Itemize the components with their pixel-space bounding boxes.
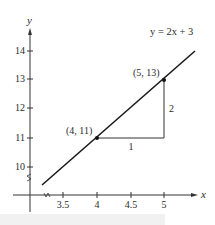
slope-triangle: 1 2 <box>97 80 174 152</box>
x-tick-5: 5 <box>162 199 167 210</box>
point-4-11 <box>95 136 99 140</box>
x-axis: x 3.5 4 4.5 5 <box>13 188 206 210</box>
y-axis-arrow-icon <box>28 28 32 35</box>
run-label: 1 <box>129 141 134 152</box>
y-tick-12: 12 <box>15 102 25 113</box>
x-axis-break-icon <box>44 193 50 197</box>
chart: y 10 11 12 13 14 x 3.5 4 4.5 5 y = 2x + … <box>0 0 215 225</box>
y-tick-13: 13 <box>15 73 25 84</box>
point-5-13 <box>162 78 166 82</box>
y-tick-11: 11 <box>15 132 25 143</box>
point-4-11-label: (4, 11) <box>66 125 92 137</box>
y-axis: y 10 11 12 13 14 <box>15 14 33 212</box>
rise-label: 2 <box>169 103 174 114</box>
x-axis-arrow-icon <box>191 193 198 197</box>
point-5-13-label: (5, 13) <box>133 67 160 79</box>
x-tick-4.5: 4.5 <box>125 199 138 210</box>
y-tick-10: 10 <box>15 161 25 172</box>
equation-label: y = 2x + 3 <box>150 26 193 37</box>
x-tick-3.5: 3.5 <box>57 199 70 210</box>
line-series <box>42 51 195 185</box>
x-axis-label: x <box>200 188 206 200</box>
x-tick-4: 4 <box>95 199 100 210</box>
y-tick-14: 14 <box>15 45 25 56</box>
y-axis-label: y <box>26 14 32 26</box>
